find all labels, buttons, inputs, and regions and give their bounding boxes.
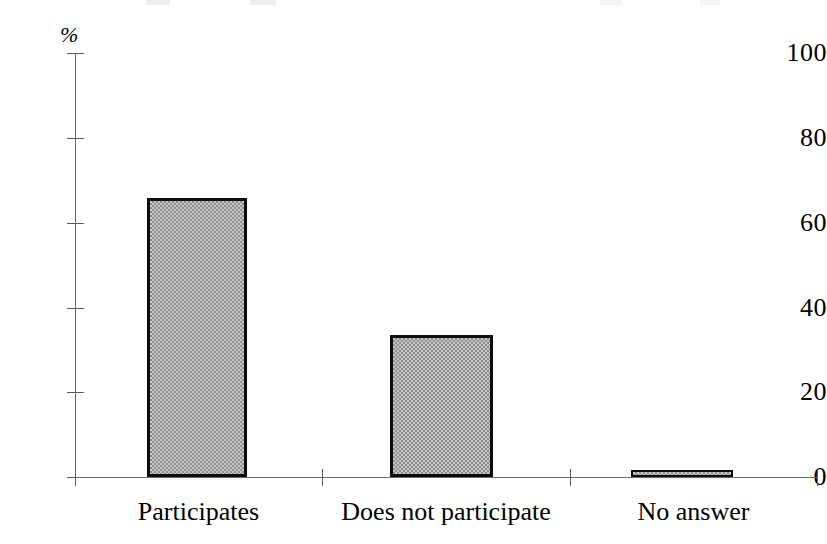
cropped-title-remnant-mid	[250, 0, 276, 5]
y-tick-label-20: 20	[769, 379, 827, 405]
x-axis-line	[75, 477, 818, 478]
x-category-label-no-answer: No answer	[570, 497, 817, 527]
y-tick-label-80: 80	[769, 125, 827, 151]
y-tick-100	[67, 53, 84, 54]
bar-participates	[147, 198, 247, 477]
y-axis-unit-label: %	[60, 24, 78, 46]
x-tick-boundary-3	[817, 469, 818, 486]
x-tick-boundary-0	[75, 469, 76, 486]
y-tick-label-100: 100	[769, 40, 827, 66]
y-tick-80	[67, 138, 84, 139]
y-tick-40	[67, 308, 84, 309]
bar-no-answer	[631, 470, 733, 477]
x-tick-boundary-2	[570, 469, 571, 486]
x-category-label-does-not-participate: Does not participate	[322, 497, 570, 527]
y-tick-60	[67, 223, 84, 224]
cropped-title-remnant-left	[146, 0, 170, 5]
bar-chart: % 100 80 60 40 20 0 Participates Does no…	[0, 0, 827, 544]
y-axis-line	[75, 53, 76, 478]
x-tick-boundary-1	[322, 469, 323, 486]
cropped-title-remnant-far-right	[700, 0, 720, 5]
x-category-label-participates: Participates	[75, 497, 322, 527]
y-tick-label-40: 40	[769, 295, 827, 321]
y-tick-label-60: 60	[769, 210, 827, 236]
bar-does-not-participate	[390, 335, 493, 477]
cropped-title-remnant-right	[600, 0, 622, 5]
y-tick-20	[67, 392, 84, 393]
